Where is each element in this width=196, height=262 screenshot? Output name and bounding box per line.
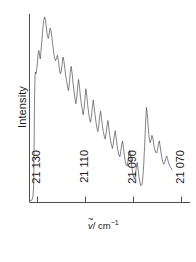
x-axis-ticks	[38, 197, 182, 203]
tilde-accent: ~	[88, 215, 93, 224]
x-axis-unit: / cm	[93, 220, 111, 231]
y-axis-label: Intensity	[16, 52, 32, 162]
x-tick-label-0: 21 130	[30, 150, 44, 206]
x-tick-label-2: 21 090	[126, 150, 140, 206]
wavenumber-symbol: ~v	[88, 220, 93, 231]
x-axis-label: ~v/ cm−1	[88, 219, 119, 231]
spectrum-trace	[30, 17, 172, 201]
x-axis-exponent: −1	[111, 219, 119, 226]
x-tick-label-3: 21 070	[174, 150, 188, 206]
x-tick-label-1: 21 110	[78, 150, 92, 206]
spectrum-figure: Intensity 21 130 21 110 21 090 21 070 ~v…	[0, 0, 196, 262]
